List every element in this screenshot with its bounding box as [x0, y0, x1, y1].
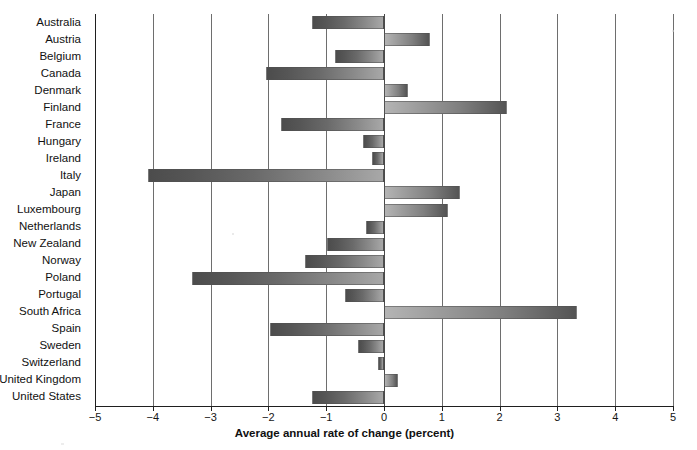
x-axis-title: Average annual rate of change (percent)	[0, 427, 697, 439]
category-label-france: France	[45, 119, 81, 131]
bar-france	[281, 118, 384, 131]
bar-italy	[148, 169, 384, 182]
x-tick-label: 5	[670, 411, 676, 423]
bar-japan	[384, 186, 460, 199]
gridline-5	[673, 14, 674, 406]
category-label-switzerland: Switzerland	[22, 357, 81, 369]
x-tick-label: −3	[204, 411, 217, 423]
category-label-italy: Italy	[60, 170, 81, 182]
bar-netherlands	[366, 221, 384, 234]
gridline-4	[615, 14, 616, 406]
category-label-australia: Australia	[36, 17, 81, 29]
y-axis-line	[95, 14, 96, 406]
x-tick-label: 0	[381, 411, 387, 423]
category-label-luxembourg: Luxembourg	[17, 204, 81, 216]
x-tick-label: −5	[89, 411, 102, 423]
category-label-sweden: Sweden	[39, 340, 81, 352]
category-label-denmark: Denmark	[34, 85, 81, 97]
category-label-ireland: Ireland	[46, 153, 81, 165]
x-tick-label: −4	[147, 411, 160, 423]
category-label-belgium: Belgium	[39, 51, 81, 63]
category-label-portugal: Portugal	[38, 289, 81, 301]
bar-luxembourg	[384, 204, 448, 217]
category-label-netherlands: Netherlands	[19, 221, 81, 233]
gridline-neg3	[211, 14, 212, 406]
bar-australia	[312, 16, 384, 29]
category-label-united-kingdom: United Kingdom	[0, 374, 81, 386]
bar-finland	[384, 101, 507, 114]
x-axis-title-text: Average annual rate of change (percent)	[235, 427, 454, 439]
category-label-canada: Canada	[41, 68, 81, 80]
gridline-neg4	[153, 14, 154, 406]
bar-spain	[270, 323, 384, 336]
bar-poland	[192, 272, 384, 285]
bar-sweden	[358, 340, 384, 353]
bar-united-states	[312, 391, 384, 404]
bar-denmark	[384, 84, 408, 97]
bar-united-kingdom	[384, 374, 398, 387]
category-axis-labels: AustraliaAustriaBelgiumCanadaDenmarkFinl…	[0, 14, 89, 406]
category-label-south-africa: South Africa	[19, 306, 81, 318]
x-tick-label: 2	[497, 411, 503, 423]
category-label-united-states: United States	[12, 391, 81, 403]
category-label-spain: Spain	[52, 323, 81, 335]
gridline-2	[500, 14, 501, 406]
x-tick-label: −1	[320, 411, 333, 423]
bar-new-zealand	[327, 238, 384, 251]
gridline-3	[557, 14, 558, 406]
category-label-austria: Austria	[45, 34, 81, 46]
category-label-japan: Japan	[50, 187, 81, 199]
bar-hungary	[363, 135, 384, 148]
x-tick-label: 4	[612, 411, 618, 423]
bar-austria	[384, 33, 430, 46]
category-label-finland: Finland	[43, 102, 81, 114]
bar-switzerland	[378, 357, 384, 370]
x-tick-label: 3	[554, 411, 560, 423]
chart-figure: AustraliaAustriaBelgiumCanadaDenmarkFinl…	[0, 0, 697, 450]
scan-artifact	[232, 233, 234, 235]
category-label-new-zealand: New Zealand	[13, 238, 81, 250]
bar-portugal	[345, 289, 384, 302]
bar-canada	[266, 67, 384, 80]
category-label-hungary: Hungary	[38, 136, 81, 148]
x-tick-label: −2	[262, 411, 275, 423]
plot-area	[95, 14, 673, 406]
category-label-norway: Norway	[42, 255, 81, 267]
bar-belgium	[335, 50, 384, 63]
bar-south-africa	[384, 306, 577, 319]
bar-ireland	[372, 152, 384, 165]
bar-norway	[305, 255, 384, 268]
scan-artifact	[672, 30, 674, 32]
category-label-poland: Poland	[45, 272, 81, 284]
x-tick-label: 1	[439, 411, 445, 423]
scan-artifact	[61, 443, 64, 445]
